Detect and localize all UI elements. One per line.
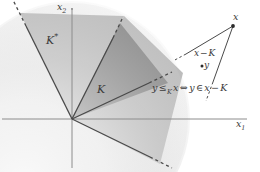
cone-label: K — [97, 84, 105, 95]
translated-cone-edge-left-dashed — [173, 54, 186, 61]
y-axis-tip-tick — [71, 8, 73, 10]
translated-cone-label: x − K — [194, 49, 215, 58]
point-x-marker — [231, 24, 235, 28]
point-y-label: y — [204, 61, 209, 70]
cone-order-diagram: x2 x1 K* K x x − K y y ≤K x ⇔ y ∈ x − K — [0, 0, 260, 172]
point-x-label: x — [233, 12, 238, 22]
order-equivalence-formula: y ≤K x ⇔ y ∈ x − K — [152, 83, 228, 95]
y-axis-label: x2 — [57, 2, 66, 14]
dual-cone-label: K* — [46, 33, 58, 46]
translated-cone-edge-right — [213, 26, 233, 82]
x-axis-label: x1 — [236, 119, 245, 131]
